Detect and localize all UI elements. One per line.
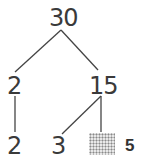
- hidden-leaf-box: [89, 133, 115, 155]
- leaf-node-2: 2: [7, 134, 21, 158]
- root-node: 30: [49, 6, 78, 30]
- left-factor-node: 2: [7, 74, 21, 98]
- right-factor-node: 15: [89, 74, 118, 98]
- hidden-leaf-label: 5: [125, 137, 134, 154]
- leaf-node-3: 3: [51, 134, 65, 158]
